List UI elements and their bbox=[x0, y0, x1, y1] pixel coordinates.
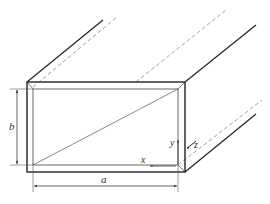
bottom-right-hidden-edge bbox=[178, 100, 262, 165]
top-left-edge bbox=[27, 20, 103, 82]
top-right-edge bbox=[185, 25, 256, 82]
top-left-hidden-edge bbox=[33, 17, 117, 87]
z-axis-label: z bbox=[193, 139, 198, 150]
y-axis-label: y bbox=[169, 137, 175, 148]
waveguide-diagram: b a x y z bbox=[0, 0, 270, 204]
corner-bevel-top-right bbox=[178, 82, 185, 89]
corner-bevel-bottom-right bbox=[178, 165, 185, 172]
dim-a-label: a bbox=[101, 173, 107, 185]
dim-b-label: b bbox=[9, 120, 15, 132]
cross-section-diagonal bbox=[33, 89, 178, 165]
top-right-hidden-edge bbox=[136, 10, 226, 82]
x-axis-label: x bbox=[140, 154, 146, 165]
corner-bevel-top-left bbox=[27, 82, 33, 89]
